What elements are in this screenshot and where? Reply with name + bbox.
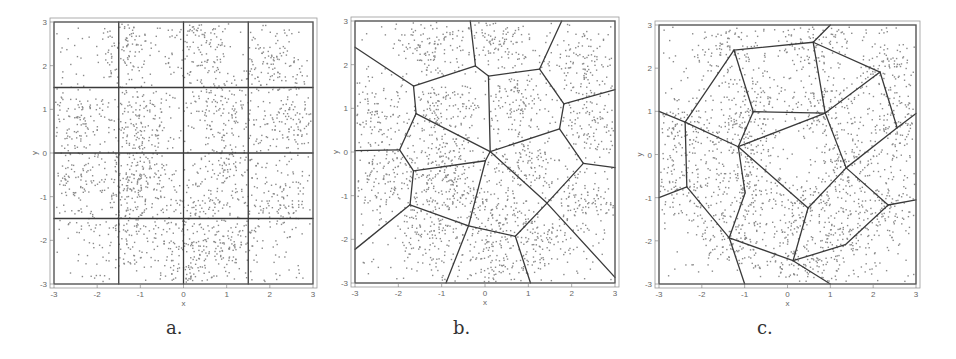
y-axis-label: y <box>635 153 644 157</box>
caption-a: a. <box>166 317 182 338</box>
x-tick-label: -3 <box>655 290 663 299</box>
x-tick-label: 1 <box>828 290 833 299</box>
caption-b: b. <box>453 317 470 338</box>
y-tick-label: 2 <box>648 64 653 73</box>
y-tick-label: 0 <box>648 151 653 160</box>
y-tick-label: 3 <box>648 21 653 30</box>
y-tick-label: -3 <box>645 280 653 289</box>
scatter-points <box>660 27 916 283</box>
axes-frame <box>659 25 916 284</box>
axes-outer-frame <box>655 21 920 288</box>
x-tick-label: -1 <box>741 290 749 299</box>
partition-lines-network <box>659 25 916 284</box>
x-tick-label: 3 <box>914 290 919 299</box>
x-tick-label: 2 <box>871 290 876 299</box>
y-tick-label: 1 <box>648 107 653 116</box>
y-tick-label: -1 <box>645 194 653 203</box>
x-axis-label: x <box>786 299 790 308</box>
scatter-plot-c: -3-2-10123-3-2-10123xy <box>0 0 956 359</box>
x-tick-label: -2 <box>698 290 706 299</box>
caption-c: c. <box>757 317 773 338</box>
x-tick-label: 0 <box>785 290 790 299</box>
y-tick-label: -2 <box>645 237 653 246</box>
